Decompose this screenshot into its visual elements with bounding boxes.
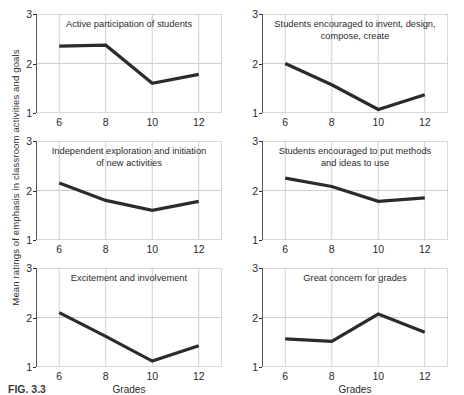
data-series-line — [59, 313, 199, 362]
x-tick-label-10: 10 — [372, 243, 384, 255]
x-tick-label-12: 12 — [193, 243, 205, 255]
panel-title: Active participation of students — [47, 19, 211, 31]
x-tick-label-12: 12 — [419, 243, 431, 255]
y-tick-mark-1 — [33, 367, 36, 368]
panel-title: Great concern for grades — [273, 273, 437, 285]
x-tick-label-12: 12 — [193, 370, 205, 382]
x-tick-label-6: 6 — [282, 116, 288, 128]
y-tick-mark-3 — [259, 14, 262, 15]
y-axis-spine — [262, 14, 263, 113]
y-tick-mark-3 — [33, 268, 36, 269]
y-tick-label-2: 2 — [18, 185, 32, 197]
x-tick-label-12: 12 — [419, 370, 431, 382]
y-tick-label-1: 1 — [244, 361, 258, 373]
chart-panel-1: 123681012Active participation of student… — [36, 14, 222, 113]
y-tick-mark-1 — [259, 367, 262, 368]
y-tick-label-1: 1 — [18, 234, 32, 246]
data-series-line — [285, 64, 425, 110]
y-axis-label-container: Mean ratings of emphasis in classroom ac… — [0, 0, 16, 360]
y-tick-mark-1 — [259, 113, 262, 114]
x-axis-label: Grades — [36, 384, 222, 395]
chart-panel-2: 123681012Students encouraged to invent, … — [262, 14, 448, 113]
y-tick-label-1: 1 — [244, 107, 258, 119]
chart-panel-5: 123681012Excitement and involvementGrade… — [36, 268, 222, 367]
y-axis-spine — [36, 14, 37, 113]
x-tick-label-10: 10 — [146, 116, 158, 128]
data-series-line — [285, 314, 425, 341]
x-tick-label-8: 8 — [329, 243, 335, 255]
y-tick-mark-2 — [33, 64, 36, 65]
y-axis-spine — [262, 268, 263, 367]
data-series-line — [59, 45, 199, 83]
data-series-line — [285, 178, 425, 201]
x-tick-label-12: 12 — [419, 116, 431, 128]
panel-title: Students encouraged to invent, design, c… — [273, 19, 437, 42]
y-tick-mark-1 — [33, 240, 36, 241]
x-tick-label-8: 8 — [103, 370, 109, 382]
x-tick-label-6: 6 — [282, 370, 288, 382]
y-tick-mark-3 — [33, 14, 36, 15]
y-tick-label-2: 2 — [18, 312, 32, 324]
panel-title: Excitement and involvement — [47, 273, 211, 285]
y-tick-label-2: 2 — [244, 312, 258, 324]
x-tick-label-12: 12 — [193, 116, 205, 128]
y-tick-label-3: 3 — [244, 135, 258, 147]
y-tick-label-2: 2 — [244, 58, 258, 70]
data-series-line — [59, 183, 199, 210]
y-tick-label-3: 3 — [18, 262, 32, 274]
y-tick-label-3: 3 — [244, 8, 258, 20]
y-tick-mark-2 — [259, 191, 262, 192]
y-tick-mark-1 — [259, 240, 262, 241]
y-axis-spine — [36, 268, 37, 367]
y-axis-spine — [262, 141, 263, 240]
y-tick-mark-3 — [259, 141, 262, 142]
x-tick-label-6: 6 — [56, 370, 62, 382]
y-tick-mark-2 — [33, 191, 36, 192]
x-tick-label-6: 6 — [56, 116, 62, 128]
x-tick-label-10: 10 — [146, 243, 158, 255]
x-axis-label: Grades — [262, 384, 448, 395]
x-tick-label-8: 8 — [103, 243, 109, 255]
panel-title: Students encouraged to put methods and i… — [273, 146, 437, 169]
y-tick-mark-1 — [33, 113, 36, 114]
x-tick-label-6: 6 — [282, 243, 288, 255]
panel-title: Independent exploration and initiation o… — [47, 146, 211, 169]
y-tick-label-3: 3 — [18, 135, 32, 147]
y-tick-label-3: 3 — [18, 8, 32, 20]
x-tick-label-8: 8 — [329, 370, 335, 382]
x-tick-label-6: 6 — [56, 243, 62, 255]
x-tick-label-10: 10 — [372, 370, 384, 382]
y-tick-label-3: 3 — [244, 262, 258, 274]
chart-panel-3: 123681012Independent exploration and ini… — [36, 141, 222, 240]
chart-panel-4: 123681012Students encouraged to put meth… — [262, 141, 448, 240]
y-tick-mark-2 — [33, 318, 36, 319]
y-tick-label-1: 1 — [244, 234, 258, 246]
figure-caption: FIG. 3.3 — [8, 383, 46, 393]
y-tick-label-1: 1 — [18, 107, 32, 119]
y-tick-mark-2 — [259, 64, 262, 65]
y-tick-mark-3 — [33, 141, 36, 142]
y-tick-mark-2 — [259, 318, 262, 319]
y-tick-label-2: 2 — [18, 58, 32, 70]
x-tick-label-8: 8 — [103, 116, 109, 128]
x-tick-label-10: 10 — [146, 370, 158, 382]
y-axis-spine — [36, 141, 37, 240]
x-tick-label-10: 10 — [372, 116, 384, 128]
y-tick-label-1: 1 — [18, 361, 32, 373]
y-tick-mark-3 — [259, 268, 262, 269]
chart-panel-6: 123681012Great concern for gradesGrades — [262, 268, 448, 367]
x-tick-label-8: 8 — [329, 116, 335, 128]
y-tick-label-2: 2 — [244, 185, 258, 197]
